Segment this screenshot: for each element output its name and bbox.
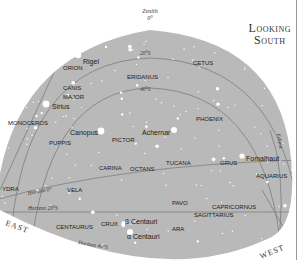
star-dot [285,233,287,235]
star-dot [166,185,167,186]
star-dot [261,105,262,106]
star-dot [167,77,168,78]
star-dot [34,85,35,86]
constellation-label: CAPRICORNUS [212,204,256,210]
constellation-label: TUCANA [166,160,191,166]
star-dot [1,109,2,110]
dec-40-label: 40°S [140,86,151,92]
star-dot [137,56,139,58]
star-dot [261,238,262,239]
star-dot [73,118,74,119]
star-dot [32,135,33,136]
star-dot [24,65,25,66]
star-dot [91,165,92,166]
star-label: Achernar [142,129,171,136]
star-dot [265,52,266,53]
star-dot [5,70,6,71]
star-dot [168,230,169,231]
star-dot [199,66,200,67]
star-label: α Centauri [127,233,160,240]
star-marker [239,153,244,158]
star-dot [244,215,245,216]
star-dot [26,128,27,129]
star-dot [91,211,95,215]
star-label: Canopus [70,129,99,137]
constellation-label: CRUX [101,221,118,227]
star-dot [146,122,147,123]
zenith-label: Zenith [142,8,157,14]
star-dot [63,116,64,117]
star-dot [69,177,70,178]
star-dot [121,179,122,180]
star-dot [181,148,182,149]
star-dot [26,107,27,108]
star-dot [279,96,281,98]
star-dot [132,49,133,50]
star-dot [71,127,72,128]
star-dot [285,226,286,227]
star-dot [71,41,72,42]
star-dot [41,112,43,114]
star-dot [2,196,3,197]
star-dot [185,111,186,112]
star-dot [211,170,212,171]
star-marker [43,101,50,108]
star-dot [83,29,84,30]
constellation-label: CENTAURUS [56,224,93,230]
star-dot [165,137,166,138]
constellation-label: CETUS [193,60,213,66]
star-marker [171,127,177,133]
star-dot [0,245,1,246]
star-dot [72,56,73,57]
star-dot [172,58,173,59]
star-dot [26,144,27,145]
constellation-label: PICTOR [112,137,135,143]
chart-title: Looking South [249,22,291,46]
star-dot [216,87,220,91]
star-dot [0,137,1,138]
star-dot [51,178,52,179]
star-dot [16,86,17,87]
star-dot [24,44,25,45]
star-dot [15,111,16,112]
star-dot [183,48,184,49]
star-dot [143,43,144,44]
constellation-label: YDRA [2,186,19,192]
star-dot [121,98,123,100]
constellation-label: PHOENIX [196,116,223,122]
star-dot [216,103,220,107]
star-dot [290,127,291,128]
star-label: Sirius [52,103,70,110]
star-dot [33,102,34,103]
star-dot [134,242,136,244]
star-dot [145,41,146,42]
star-dot [218,130,219,131]
star-dot [227,107,228,108]
star-dot [101,80,102,81]
star-dot [145,80,146,81]
star-dot [136,84,138,86]
constellation-label: GRUS [220,160,237,166]
star-dot [135,142,137,144]
star-dot [81,107,82,108]
star-dot [55,122,56,123]
star-dot [198,91,199,92]
star-dot [46,232,47,233]
star-dot [23,34,24,35]
star-dot [219,145,220,146]
star-dot [90,83,91,84]
star-dot [38,101,39,102]
zenith-value: 0° [147,15,153,21]
star-dot [120,91,122,93]
constellation-label: ARA [172,226,184,232]
star-dot [266,181,268,183]
star-dot [40,66,41,67]
star-dot [254,126,255,127]
star-dot [281,101,282,102]
star-dot [155,144,159,148]
star-dot [25,76,26,77]
star-dot [234,104,235,105]
star-dot [128,45,132,49]
star-dot [35,227,36,228]
star-dot [8,147,9,148]
